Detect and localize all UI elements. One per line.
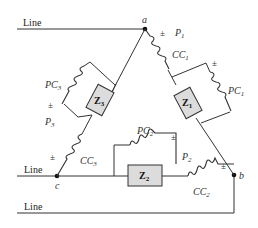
current-coil-cc2 <box>188 158 234 176</box>
pc2-label: PC2 <box>136 125 154 138</box>
cc1-polarity: ± <box>160 28 165 38</box>
p2-label: P2 <box>181 151 192 164</box>
line-top-label: Line <box>23 17 42 28</box>
pc1-polarity: ± <box>212 58 217 68</box>
three-wattmeter-delta-circuit: Line Line Line a b c Z3 <box>0 0 258 228</box>
svg-text:c: c <box>55 180 60 191</box>
svg-text:a: a <box>142 14 147 25</box>
pc1-label: PC1 <box>227 85 244 98</box>
node-a: a <box>142 14 147 31</box>
p1-label: P1 <box>174 27 185 40</box>
svg-text:b: b <box>239 170 244 181</box>
pc3-polarity: ± <box>48 100 53 110</box>
branch-ac: Z3 PC3 ± P3 ± CC3 <box>44 29 145 176</box>
cc2-polarity: ± <box>221 161 226 171</box>
line-mid: Line <box>17 164 57 176</box>
cc2-label: CC2 <box>193 186 210 199</box>
cc3-label: CC3 <box>80 155 97 168</box>
line-top: Line <box>17 17 145 29</box>
pc2-polarity: ± <box>171 132 176 142</box>
cc3-polarity: ± <box>50 152 55 162</box>
cc1-label: CC1 <box>172 49 189 62</box>
potential-coil-pc1 <box>201 72 231 123</box>
branch-ab: ± P1 CC1 ± PC1 Z1 ± <box>145 27 244 175</box>
pc3-label: PC3 <box>44 79 62 92</box>
line-mid-label: Line <box>24 164 43 175</box>
line-bottom-label: Line <box>24 201 43 212</box>
current-coil-cc3 <box>57 134 82 176</box>
p3-label: P3 <box>44 116 55 129</box>
potential-coil-pc3 <box>62 66 92 117</box>
current-coil-cc1 <box>145 29 169 69</box>
